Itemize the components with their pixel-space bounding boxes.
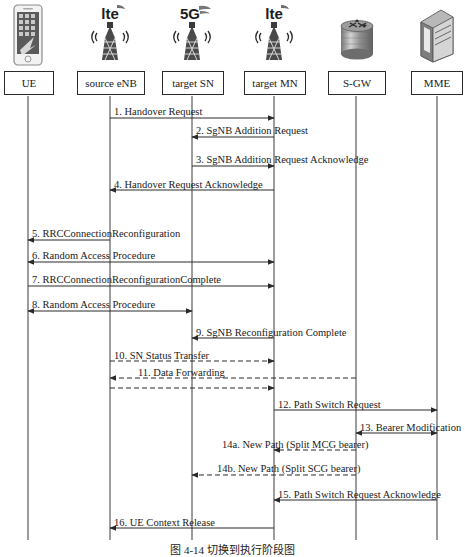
message-label-5.: 5. RRCConnectionReconfiguration	[32, 229, 180, 240]
message-label-4.: 4. Handover Request Acknowledge	[114, 180, 263, 191]
figure-caption: 图 4-14 切换到执行阶段图	[0, 541, 465, 557]
message-label-3.: 3. SgNB Addition Request Acknowledge	[196, 155, 368, 166]
message-label-7.: 7. RRCConnectionReconfigurationComplete	[32, 275, 221, 286]
message-label-16.: 16. UE Context Release	[114, 518, 215, 529]
message-label-11a.: 11. Data Forwarding	[138, 368, 225, 379]
message-label-12.: 12. Path Switch Request	[278, 400, 381, 411]
message-label-14b.: 14b. New Path (Split SCG bearer)	[217, 464, 360, 475]
message-label-9.: 9. SgNB Reconfiguration Complete	[196, 328, 346, 339]
message-label-14a.: 14a. New Path (Split MCG bearer)	[222, 440, 368, 451]
message-label-13.: 13. Bearer Modification	[360, 423, 461, 434]
message-label-1.: 1. Handover Request	[114, 107, 202, 118]
message-label-15.: 15. Path Switch Request Acknowledge	[278, 490, 441, 501]
message-label-8.: 8. Random Access Procedure	[32, 300, 155, 311]
message-label-2.: 2. SgNB Addition Request	[196, 126, 308, 137]
message-label-10.: 10. SN Status Transfer	[114, 351, 209, 362]
message-label-6.: 6. Random Access Procedure	[32, 251, 155, 262]
